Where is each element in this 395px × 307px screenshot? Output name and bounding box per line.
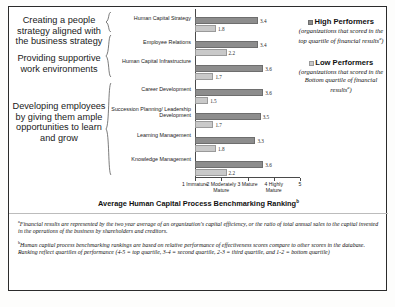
- legend-swatch-high-icon: [308, 20, 313, 25]
- bar-low-5: [195, 145, 216, 152]
- category-label-5: Learning Management: [109, 132, 191, 138]
- legend-item-low: Low Performers (organizations that score…: [297, 58, 385, 93]
- legend-desc-low-text: (organizations that scored in the Bottom…: [299, 68, 383, 92]
- legend-desc-low: (organizations that scored in the Bottom…: [297, 68, 385, 93]
- footnote-b-text: Human capital process benchmarking ranki…: [18, 242, 365, 255]
- bar-value-high-3: 3.6: [265, 90, 271, 96]
- legend-title-high: High Performers: [297, 17, 385, 26]
- bars-canvas: 3.41.83.42.23.61.73.61.53.51.73.31.83.62…: [195, 9, 300, 177]
- x-tick-label-4: 5: [283, 181, 317, 187]
- category-label-6: Knowledge Management: [109, 156, 191, 162]
- bar-value-high-2: 3.6: [265, 66, 271, 72]
- legend-label-low: Low Performers: [315, 58, 373, 67]
- legend-desc-low-tail: ): [350, 86, 352, 93]
- bar-value-low-2: 1.7: [215, 74, 221, 80]
- category-label-2: Human Capital Infrastructure: [109, 58, 191, 64]
- chart-frame: Creating a people strategy aligned with …: [8, 6, 387, 291]
- bar-high-1: [195, 41, 258, 48]
- legend-label-high: High Performers: [314, 17, 374, 26]
- group-label-2: Developing employees by giving them ampl…: [11, 101, 107, 143]
- bar-high-2: [195, 65, 263, 72]
- bar-high-3: [195, 89, 263, 96]
- bar-low-3: [195, 97, 208, 104]
- category-label-1: Employee Relations: [109, 39, 191, 45]
- bar-high-4: [195, 113, 261, 120]
- bar-high-6: [195, 161, 263, 168]
- bar-high-5: [195, 137, 255, 144]
- bar-value-high-5: 3.3: [257, 138, 263, 144]
- bar-low-6: [195, 169, 227, 176]
- x-axis-title-text: Average Human Capital Process Benchmarki…: [98, 199, 296, 208]
- bar-value-low-4: 1.7: [215, 122, 221, 128]
- x-axis-title-sup: b: [296, 199, 299, 204]
- group-label-column: Creating a people strategy aligned with …: [11, 9, 107, 177]
- category-label-0: Human Capital Strategy: [109, 15, 191, 21]
- legend-desc-high-text: (organizations that scored in the top qu…: [298, 27, 383, 44]
- group-label-1: Providing supportive work environments: [11, 53, 107, 74]
- group-label-0: Creating a people strategy aligned with …: [11, 15, 107, 47]
- legend-swatch-low-icon: [309, 61, 314, 66]
- bar-value-high-6: 3.6: [265, 162, 271, 168]
- bar-low-1: [195, 49, 227, 56]
- x-axis-title: Average Human Capital Process Benchmarki…: [9, 199, 388, 208]
- category-label-3: Career Development: [109, 86, 191, 92]
- bar-value-low-3: 1.5: [210, 98, 216, 104]
- bar-high-0: [195, 17, 258, 24]
- bar-value-low-0: 1.8: [218, 26, 224, 32]
- footnote-a-text: Financial results are represented by the…: [18, 221, 378, 234]
- bar-low-2: [195, 73, 213, 80]
- footnote-b: bHuman capital process benchmarking rank…: [18, 239, 379, 257]
- bar-value-low-5: 1.8: [218, 146, 224, 152]
- legend-desc-high: (organizations that scored in the top qu…: [297, 27, 385, 44]
- bar-value-high-4: 3.5: [263, 114, 269, 120]
- category-label-column: Human Capital Strategy Employee Relation…: [109, 7, 193, 177]
- chart-page: Creating a people strategy aligned with …: [0, 0, 395, 307]
- bar-low-0: [195, 25, 216, 32]
- bar-value-high-1: 3.4: [260, 42, 266, 48]
- legend-item-high: High Performers (organizations that scor…: [297, 17, 385, 44]
- legend: High Performers (organizations that scor…: [297, 17, 385, 107]
- bar-value-low-1: 2.2: [229, 50, 235, 56]
- bar-low-4: [195, 121, 213, 128]
- footnotes: aFinancial results are represented by th…: [9, 213, 388, 292]
- bar-value-low-6: 2.2: [229, 170, 235, 176]
- category-label-4: Succession Planning/ Leadership Developm…: [109, 106, 191, 118]
- legend-desc-high-tail: ): [381, 37, 383, 44]
- plot-area: Creating a people strategy aligned with …: [9, 7, 388, 212]
- footnote-a: aFinancial results are represented by th…: [18, 218, 379, 236]
- bar-value-high-0: 3.4: [260, 18, 266, 24]
- legend-title-low: Low Performers: [297, 58, 385, 67]
